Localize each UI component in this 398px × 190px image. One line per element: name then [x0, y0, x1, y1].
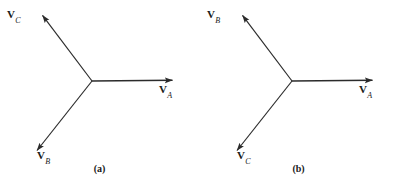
phasor-diagram-figure: VC VA VB (a) VB VA: [0, 0, 398, 190]
vector-line-vb: [37, 81, 92, 151]
vector-label-va: VA: [159, 84, 172, 98]
vector-symbol-vb: V: [207, 8, 215, 20]
vector-symbol-vb: V: [37, 149, 45, 161]
vector-subscript-va: A: [367, 91, 372, 100]
vector-label-vc: VC: [7, 9, 20, 23]
vector-label-vb: VB: [207, 9, 220, 23]
phasor-panel-b: VB VA VC (b): [199, 0, 398, 190]
vector-subscript-vc: C: [15, 16, 20, 25]
vector-label-va: VA: [359, 84, 372, 98]
vector-line-va: [292, 80, 373, 81]
panel-caption-a: (a): [0, 163, 199, 174]
phasor-panel-a: VC VA VB (a): [0, 0, 199, 190]
vector-symbol-vc: V: [237, 149, 245, 161]
vector-line-vc: [237, 81, 292, 151]
vector-symbol-vc: V: [7, 8, 15, 20]
vector-subscript-vb: B: [215, 16, 220, 25]
vector-symbol-va: V: [359, 83, 367, 95]
vector-symbol-va: V: [159, 83, 167, 95]
vector-line-vb: [243, 15, 293, 81]
vector-line-vc: [43, 15, 93, 81]
vector-subscript-va: A: [167, 91, 172, 100]
panel-caption-b: (b): [199, 163, 398, 174]
vector-line-va: [92, 80, 173, 81]
